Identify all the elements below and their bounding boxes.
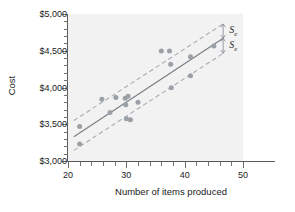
y-tick-minor xyxy=(64,73,68,74)
y-tick-minor xyxy=(64,21,68,22)
y-tick-minor xyxy=(64,65,68,66)
y-tick-minor xyxy=(64,146,68,147)
x-tick-label: 20 xyxy=(63,170,73,180)
x-tick-minor xyxy=(103,162,104,166)
x-tick-label: 30 xyxy=(121,170,131,180)
x-tick-minor xyxy=(220,162,221,166)
x-tick-minor xyxy=(115,162,116,166)
y-tick-minor xyxy=(64,95,68,96)
x-tick-major xyxy=(185,162,186,168)
y-tick-minor xyxy=(64,154,68,155)
x-tick-minor xyxy=(196,162,197,166)
x-tick-major xyxy=(126,162,127,168)
y-tick-minor xyxy=(64,80,68,81)
y-tick-label: $5,000 xyxy=(39,9,67,19)
y-tick-minor xyxy=(64,36,68,37)
x-tick-minor xyxy=(161,162,162,166)
x-tick-minor xyxy=(150,162,151,166)
x-tick-minor xyxy=(231,162,232,166)
x-tick-label: 50 xyxy=(238,170,248,180)
x-tick-minor xyxy=(80,162,81,166)
se-label: Se xyxy=(229,39,237,53)
x-tick-minor xyxy=(138,162,139,166)
y-tick-minor xyxy=(64,58,68,59)
x-tick-minor xyxy=(91,162,92,166)
scatter-chart: $3,000$3,500$4,000$4,500$5,000 20304050 … xyxy=(0,0,295,212)
y-tick-label: $4,000 xyxy=(39,83,67,93)
x-tick-major xyxy=(68,162,69,168)
y-tick-label: $3,500 xyxy=(39,119,67,129)
y-tick-minor xyxy=(64,43,68,44)
y-tick-minor xyxy=(64,102,68,103)
y-tick-minor xyxy=(64,117,68,118)
y-tick-minor xyxy=(64,132,68,133)
x-tick-minor xyxy=(208,162,209,166)
y-tick-minor xyxy=(64,139,68,140)
x-tick-major xyxy=(243,162,244,168)
y-axis-title: Cost xyxy=(6,64,17,108)
y-tick-minor xyxy=(64,110,68,111)
x-tick-minor xyxy=(173,162,174,166)
se-label: Se xyxy=(229,24,237,38)
x-tick-label: 40 xyxy=(180,170,190,180)
y-tick-label: $3,000 xyxy=(39,156,67,166)
y-tick-minor xyxy=(64,29,68,30)
plot-area xyxy=(68,14,243,161)
x-axis-title: Number of items produced xyxy=(67,186,275,197)
y-tick-label: $4,500 xyxy=(39,46,67,56)
